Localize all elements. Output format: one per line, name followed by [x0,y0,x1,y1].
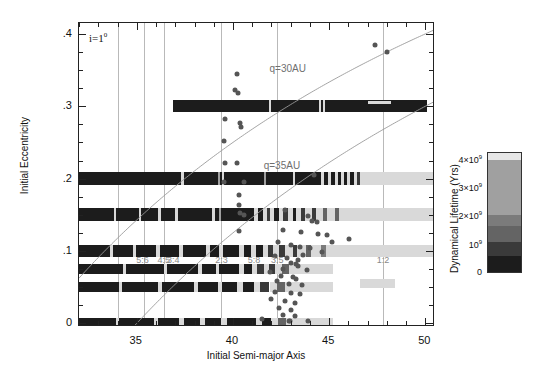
y-tick-right [429,124,433,125]
x-tick-top [252,23,253,27]
x-tick-top [214,23,215,27]
figure-root: i=10 q=30AUq=35AU 5:64:53:42:35:83:51:2 … [0,0,540,373]
y-tick-right [429,70,433,71]
y-tick-right [426,323,433,324]
x-tick-top [348,23,349,27]
x-tick [329,318,330,325]
scatter-point [241,212,246,217]
y-tick-label-3: .3 [48,99,72,111]
scatter-point [236,192,241,197]
y-tick [79,251,86,252]
scatter-point [288,307,293,312]
y-tick [79,233,83,234]
scatter-point [347,236,352,241]
x-tick-label-40: 40 [226,334,238,346]
scatter-point [281,228,286,233]
plot-area: i=10 q=30AUq=35AU 5:64:53:42:35:83:51:2 [78,22,434,326]
scatter-point [298,292,303,297]
x-tick-top [175,23,176,27]
resonance-label-3-4: 3:4 [167,255,180,265]
x-tick-top [271,23,272,27]
y-tick [79,70,83,71]
colorbar-tick-text: 4×10 [458,154,478,164]
colorbar-tick-label-3: 3×109 [458,182,482,193]
colorbar-tick-text: 10 [469,239,479,249]
x-tick [348,321,349,325]
y-tick-label-1: .1 [48,244,72,256]
y-tick [79,142,83,143]
colorbar-segment [488,226,521,242]
scatter-point [277,305,282,310]
colorbar-segment [488,160,521,215]
colorbar-segment [488,153,521,160]
colorbar-tick-label-4: 4×109 [458,153,482,164]
x-tick-top [425,23,426,30]
x-tick [118,321,119,325]
scatter-point [305,267,310,272]
x-tick [271,321,272,325]
x-axis-title: Initial Semi-major Axis [78,350,434,361]
colorbar-tick-exponent: 9 [479,153,482,159]
resonance-label-3-5: 3:5 [271,255,284,265]
scatter-point [281,267,286,272]
x-tick-top [79,23,80,27]
x-tick-top [291,23,292,27]
colorbar [487,152,522,273]
x-tick-label-50: 50 [418,334,430,346]
colorbar-segment [488,256,521,272]
scatter-point [315,231,320,236]
x-tick [310,321,311,325]
scatter-point [292,314,297,319]
scatter-point [286,281,291,286]
resonance-label-5-6: 5:6 [136,255,149,265]
scatter-point [236,228,241,233]
scatter-point [298,244,303,249]
colorbar-tick-exponent: 9 [479,210,482,216]
curve-label-q35: q=35AU [264,160,300,171]
scatter-point [276,240,281,245]
colorbar-tick-label-1: 109 [469,238,482,249]
colorbar-segment [488,215,521,226]
scatter-point [234,71,239,76]
scatter-point [330,240,335,245]
y-tick [79,269,83,270]
colorbar-gradient [487,152,522,273]
scatter-point [294,276,299,281]
perihelion-curves [79,23,433,325]
y-tick [79,287,83,288]
x-tick-label-35: 35 [130,334,142,346]
y-axis-title: Initial Eccentricity [19,86,30,226]
y-tick-right [426,34,433,35]
y-tick-label-2: .2 [48,172,72,184]
y-tick [79,106,86,107]
y-tick [79,161,83,162]
scatter-point [223,160,228,165]
scatter-point [241,179,246,184]
scatter-point [307,246,312,251]
y-tick [79,323,86,324]
scatter-point [222,179,227,184]
y-tick [79,305,83,306]
y-tick-right [429,88,433,89]
y-tick [79,34,86,35]
x-tick-top [329,23,330,30]
inclination-text: i=1 [89,32,104,44]
scatter-point [235,91,240,96]
scatter-point [282,207,287,212]
y-tick-right [429,142,433,143]
scatter-point [275,279,280,284]
scatter-point [373,42,378,47]
scatter-point [281,312,286,317]
y-tick [79,52,83,53]
y-tick [79,215,83,216]
scatter-point [301,252,306,257]
scatter-point [292,301,297,306]
x-tick-top [406,23,407,27]
resonance-label-2-3: 2:3 [215,255,228,265]
y-tick [79,179,86,180]
x-tick-top [118,23,119,27]
y-tick [79,124,83,125]
scatter-point [296,263,301,268]
x-tick [406,321,407,325]
perihelion-curve-30 [79,30,433,278]
